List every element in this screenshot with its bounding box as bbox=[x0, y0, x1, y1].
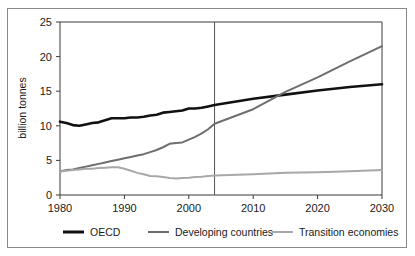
x-tick-label: 2020 bbox=[305, 202, 329, 214]
legend-label-oecd: OECD bbox=[90, 226, 121, 238]
x-tick-label: 1990 bbox=[112, 202, 136, 214]
line-chart: 0510152025 198019902000201020202030 bill… bbox=[0, 0, 415, 256]
plot-area bbox=[60, 22, 382, 195]
y-tick-label: 0 bbox=[46, 189, 52, 201]
x-axis-ticks bbox=[60, 195, 382, 199]
y-tick-label: 15 bbox=[40, 85, 52, 97]
x-axis-tick-labels: 198019902000201020202030 bbox=[48, 202, 394, 214]
y-axis-title: billion tonnes bbox=[16, 77, 28, 138]
legend-label-developing-countries: Developing countries bbox=[175, 226, 273, 238]
chart-figure: 0510152025 198019902000201020202030 bill… bbox=[0, 0, 415, 256]
plot-background bbox=[60, 22, 382, 195]
x-tick-label: 1980 bbox=[48, 202, 72, 214]
y-tick-label: 20 bbox=[40, 51, 52, 63]
chart-legend: OECDDeveloping countriesTransition econo… bbox=[63, 226, 398, 238]
y-tick-label: 25 bbox=[40, 16, 52, 28]
x-tick-label: 2010 bbox=[241, 202, 265, 214]
y-tick-label: 5 bbox=[46, 154, 52, 166]
legend-label-transition-economies: Transition economies bbox=[299, 226, 398, 238]
y-tick-label: 10 bbox=[40, 120, 52, 132]
y-axis-ticks bbox=[56, 22, 60, 195]
x-tick-label: 2000 bbox=[177, 202, 201, 214]
x-tick-label: 2030 bbox=[370, 202, 394, 214]
y-axis-tick-labels: 0510152025 bbox=[40, 16, 52, 201]
